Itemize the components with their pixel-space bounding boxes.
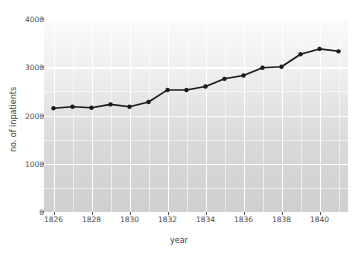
y-axis-title: no. of inpatients <box>9 60 18 180</box>
x-tick-mark <box>168 212 169 215</box>
x-tick-label: 1832 <box>158 215 177 224</box>
data-point <box>146 100 150 104</box>
x-tick-mark <box>282 212 283 215</box>
x-tick-label: 1836 <box>234 215 253 224</box>
plot-panel <box>44 19 348 212</box>
x-tick-label: 1830 <box>120 215 139 224</box>
x-tick-label: 1834 <box>196 215 215 224</box>
data-point <box>317 47 321 51</box>
y-tick-mark <box>41 115 44 116</box>
x-tick-label: 1840 <box>310 215 329 224</box>
x-tick-mark <box>92 212 93 215</box>
data-point <box>51 106 55 110</box>
data-point <box>241 73 245 77</box>
data-point <box>298 52 302 56</box>
y-tick-mark <box>41 67 44 68</box>
x-tick-label: 1838 <box>272 215 291 224</box>
x-tick-label: 1826 <box>44 215 63 224</box>
x-tick-mark <box>54 212 55 215</box>
data-point <box>184 88 188 92</box>
data-point <box>89 106 93 110</box>
y-tick-mark <box>41 19 44 20</box>
x-tick-mark <box>206 212 207 215</box>
data-point <box>108 102 112 106</box>
x-axis-title: year <box>0 236 358 245</box>
data-point <box>203 84 207 88</box>
data-point <box>127 105 131 109</box>
data-point <box>222 77 226 81</box>
x-tick-mark <box>130 212 131 215</box>
y-tick-mark <box>41 212 44 213</box>
line-series <box>44 19 348 212</box>
series-line-path <box>54 49 339 108</box>
x-tick-label: 1828 <box>82 215 101 224</box>
y-tick-mark <box>41 163 44 164</box>
data-point <box>165 88 169 92</box>
data-point <box>336 49 340 53</box>
x-tick-mark <box>320 212 321 215</box>
data-point <box>279 65 283 69</box>
x-tick-mark <box>244 212 245 215</box>
data-point <box>260 66 264 70</box>
data-point <box>70 105 74 109</box>
chart-container: 01000200030004000 1826182818301832183418… <box>0 0 358 260</box>
